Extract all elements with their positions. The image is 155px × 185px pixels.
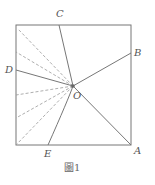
segment-OB	[73, 53, 131, 86]
label-D: D	[5, 65, 13, 75]
label-A: A	[134, 146, 141, 156]
label-O: O	[73, 91, 81, 101]
center-point	[71, 84, 75, 88]
label-C: C	[56, 9, 64, 19]
dashed-rays	[16, 29, 73, 145]
segment-OA	[73, 86, 131, 145]
label-B: B	[134, 48, 141, 58]
segment-OC	[59, 25, 73, 86]
segment-OE	[48, 86, 73, 145]
figure-caption: 圖1	[64, 163, 80, 173]
segment-OD	[16, 70, 73, 86]
label-E: E	[44, 149, 51, 159]
